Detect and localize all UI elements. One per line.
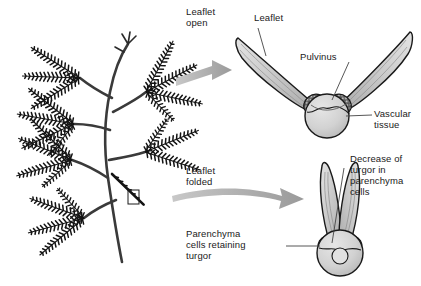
label-leaflet: Leaflet <box>254 12 283 23</box>
leaf-cluster-lower-left <box>27 186 87 259</box>
leaf-cluster-upper-right <box>142 38 204 123</box>
leaf-cluster-mid-left <box>16 84 77 158</box>
pulvinus-open <box>305 94 349 138</box>
mimosa-leaflet-figure: Leaflet open Leaflet Pulvinus Vascular t… <box>0 0 421 286</box>
label-pulvinus: Pulvinus <box>300 51 337 62</box>
label-vascular-tissue: Vascular tissue <box>374 108 411 130</box>
plant-stems <box>72 44 146 262</box>
leaf-cluster-top-left <box>22 43 83 113</box>
label-leaflet-folded: Leaflet folded <box>186 165 215 187</box>
arrow-folded <box>172 188 304 209</box>
label-leaflet-open: Leaflet open <box>186 6 215 28</box>
label-decrease-of-turgor: Decrease of turgor in parenchyma cells <box>350 153 403 197</box>
leaf-cluster-upper-left <box>15 116 76 190</box>
pulvinus-folded <box>317 230 363 276</box>
label-parenchyma-cells-retaining-turgor: Parenchyma cells retaining turgor <box>186 228 246 261</box>
mimosa-plant-illustration <box>15 32 204 262</box>
